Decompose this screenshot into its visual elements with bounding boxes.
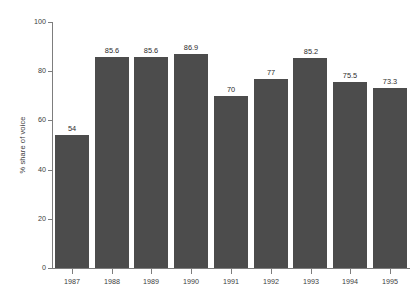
y-axis-title: % share of voice (16, 22, 30, 268)
bar (174, 54, 208, 268)
bar (214, 96, 248, 268)
y-tick-label: 80 (24, 67, 46, 75)
x-tick-mark (112, 269, 113, 274)
bar-value-label: 85.2 (291, 47, 331, 56)
y-tick-mark (48, 71, 52, 72)
bar-value-label: 70 (211, 85, 251, 94)
x-tick-label: 1991 (211, 277, 251, 286)
x-tick-label: 1993 (291, 277, 331, 286)
y-tick-mark (48, 170, 52, 171)
x-tick-mark (231, 269, 232, 274)
bar-value-label: 73.3 (370, 77, 410, 86)
y-axis-line (52, 22, 53, 269)
x-tick-label: 1994 (330, 277, 370, 286)
y-tick-label: 100 (24, 18, 46, 26)
x-tick-label: 1992 (251, 277, 291, 286)
bar-value-label: 54 (52, 124, 92, 133)
bar-value-label: 77 (251, 68, 291, 77)
y-tick-label: 60 (24, 116, 46, 124)
x-tick-label: 1990 (171, 277, 211, 286)
bar-value-label: 86.9 (171, 43, 211, 52)
y-tick-mark (48, 219, 52, 220)
x-tick-mark (271, 269, 272, 274)
y-tick-mark (48, 268, 52, 269)
bar-chart: % share of voice 020406080100 1987198819… (0, 0, 420, 303)
x-tick-mark (151, 269, 152, 274)
x-tick-mark (390, 269, 391, 274)
x-tick-mark (350, 269, 351, 274)
x-tick-label: 1995 (370, 277, 410, 286)
bar (95, 57, 129, 268)
x-tick-mark (311, 269, 312, 274)
x-tick-mark (72, 269, 73, 274)
bar (333, 82, 367, 268)
x-tick-label: 1989 (131, 277, 171, 286)
bar-value-label: 75.5 (330, 71, 370, 80)
bar (254, 79, 288, 268)
bar (134, 57, 168, 268)
y-tick-mark (48, 120, 52, 121)
bar (55, 135, 89, 268)
bar (373, 88, 407, 268)
bar-value-label: 85.6 (92, 46, 132, 55)
x-tick-label: 1987 (52, 277, 92, 286)
y-tick-label: 20 (24, 215, 46, 223)
x-tick-label: 1988 (92, 277, 132, 286)
y-tick-label: 40 (24, 166, 46, 174)
bar-value-label: 85.6 (131, 46, 171, 55)
y-tick-mark (48, 22, 52, 23)
bar (293, 58, 327, 268)
y-tick-label: 0 (24, 264, 46, 272)
x-tick-mark (191, 269, 192, 274)
